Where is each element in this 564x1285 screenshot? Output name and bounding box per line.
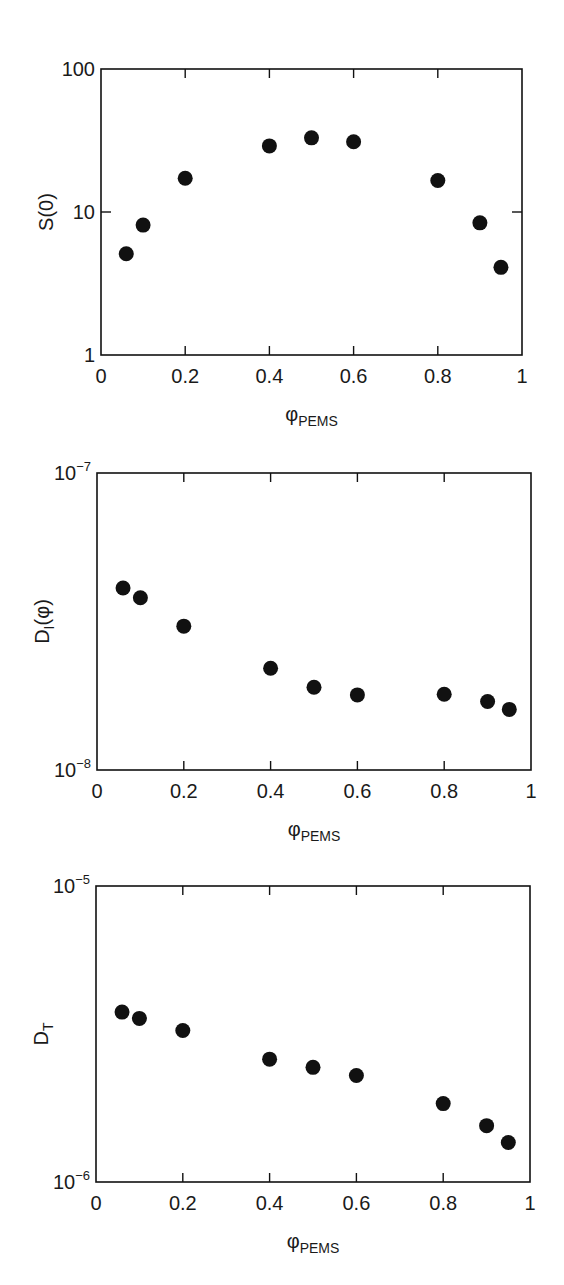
x-tick-label: 1 [525,780,536,802]
y-axis-title: S(0) [35,193,57,231]
data-point [430,173,445,188]
data-point [304,130,319,145]
data-point [119,246,134,261]
data-point [176,619,191,634]
data-point [133,590,148,605]
x-tick-label: 0.8 [429,1192,457,1214]
x-tick-label: 1 [524,1192,535,1214]
y-tick-label: 10−6 [53,1168,90,1193]
x-tick-label: 1 [516,365,527,387]
x-axis-title: φPEMS [287,1230,340,1256]
data-point [175,1023,190,1038]
data-point [136,218,151,233]
y-axis-title: DT [30,1022,56,1045]
x-tick-label: 0.6 [342,1192,370,1214]
data-point [502,702,517,717]
x-tick-label: 0.4 [256,1192,284,1214]
figure-canvas: 00.20.40.60.81110100φPEMSS(0) 00.20.40.6… [0,0,564,1285]
data-point [349,1068,364,1083]
plot-frame [101,69,522,355]
y-tick-label: 100 [62,58,95,80]
x-tick-label: 0.6 [340,365,368,387]
plot-frame [97,473,531,770]
data-point [479,1118,494,1133]
x-tick-label: 0 [90,1192,101,1214]
data-point [116,581,131,596]
y-axis-title: DI(φ) [31,599,57,644]
data-point [178,171,193,186]
x-tick-label: 0.2 [169,1192,197,1214]
x-tick-label: 0.4 [257,780,285,802]
data-point [263,661,278,676]
data-point [480,694,495,709]
x-tick-label: 0.8 [430,780,458,802]
panel-dt: 00.20.40.60.8110−610−5φPEMSDT [30,872,536,1256]
data-point [132,1011,147,1026]
y-tick-label: 10−5 [53,872,90,897]
x-tick-label: 0.2 [170,780,198,802]
data-point [262,138,277,153]
x-tick-label: 0 [95,365,106,387]
data-point [350,687,365,702]
data-point [501,1135,516,1150]
data-point [262,1052,277,1067]
plot-frame [96,886,530,1182]
y-tick-label: 10−7 [54,459,91,484]
data-point [115,1005,130,1020]
data-point [437,687,452,702]
x-axis-title: φPEMS [285,403,338,429]
data-point [346,134,361,149]
figure: 00.20.40.60.81110100φPEMSS(0) 00.20.40.6… [0,0,564,1285]
y-tick-label: 10−8 [54,756,91,781]
x-tick-label: 0.4 [255,365,283,387]
data-point [436,1096,451,1111]
data-point [306,1060,321,1075]
data-point [472,215,487,230]
data-point [493,260,508,275]
x-tick-label: 0.2 [171,365,199,387]
x-tick-label: 0 [91,780,102,802]
y-tick-label: 10 [73,201,95,223]
x-tick-label: 0.6 [343,780,371,802]
panel-di: 00.20.40.60.8110−810−7φPEMSDI(φ) [31,459,537,844]
x-axis-title: φPEMS [288,818,341,844]
y-tick-label: 1 [84,344,95,366]
data-point [307,680,322,695]
panel-s0: 00.20.40.60.81110100φPEMSS(0) [35,58,528,429]
x-tick-label: 0.8 [424,365,452,387]
